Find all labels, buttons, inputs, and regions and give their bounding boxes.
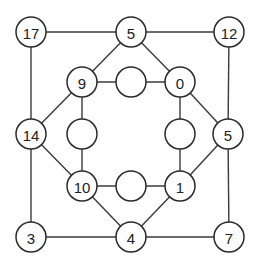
node-n5right: 5 [213,119,243,149]
node-label: 5 [224,127,232,144]
node-n3: 3 [16,222,46,252]
node-label: 5 [127,25,135,42]
node-n14: 14 [16,119,46,149]
node-label: 9 [78,75,86,92]
node-label: 7 [225,230,233,247]
node-circle [116,171,146,201]
node-n7: 7 [214,222,244,252]
node-n5top: 5 [116,17,146,47]
node-label: 0 [176,75,184,92]
node-label: 17 [23,25,40,42]
node-n12: 12 [214,17,244,47]
empty-node[interactable] [116,67,146,97]
node-n1: 1 [165,171,195,201]
node-n10: 10 [67,171,97,201]
graph-diagram: 1751214534790101 [0,0,263,262]
node-circle [165,119,195,149]
empty-node[interactable] [165,119,195,149]
node-label: 4 [127,230,135,247]
nodes-layer: 1751214534790101 [16,17,244,252]
node-label: 1 [176,179,184,196]
node-n9: 9 [67,67,97,97]
node-n0: 0 [165,67,195,97]
edges-layer [31,32,229,237]
node-n4: 4 [116,222,146,252]
empty-node[interactable] [116,171,146,201]
node-label: 12 [221,25,238,42]
node-label: 10 [74,179,91,196]
node-label: 3 [27,230,35,247]
node-circle [116,67,146,97]
node-label: 14 [23,127,40,144]
empty-node[interactable] [67,119,97,149]
node-n17: 17 [16,17,46,47]
node-circle [67,119,97,149]
